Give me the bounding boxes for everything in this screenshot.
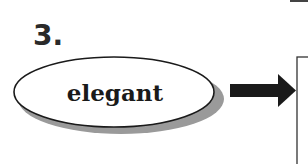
word-label: elegant [15, 57, 215, 127]
target-box [297, 57, 308, 164]
diagram-canvas: 3. elegant [0, 0, 308, 164]
arrow-right-icon [230, 74, 296, 107]
step-number: 3. [33, 22, 63, 50]
